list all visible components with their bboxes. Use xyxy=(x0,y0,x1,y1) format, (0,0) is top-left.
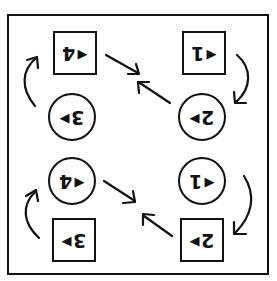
straight-arrow-bottom-right xyxy=(144,216,172,236)
pointer-right-icon: ▶ xyxy=(75,175,85,188)
curved-arrow-top-left xyxy=(25,58,36,106)
node-digit: 1 xyxy=(191,44,204,63)
pointer-left-icon: ◀ xyxy=(59,111,69,124)
pointer-left-icon: ◀ xyxy=(61,234,71,247)
pointer-right-icon: ▶ xyxy=(207,47,217,60)
node-circle-upper-left: ◀ 3 xyxy=(48,93,96,141)
node-digit: 2 xyxy=(201,231,214,250)
node-circle-lower-left: 4 ▶ xyxy=(48,157,96,205)
pointer-left-icon: ◀ xyxy=(189,234,199,247)
node-square-top-left: 4 ▶ xyxy=(53,31,97,75)
node-square-top-right: 1 ▶ xyxy=(182,31,226,75)
node-square-bottom-left: ◀ 3 xyxy=(52,218,96,262)
straight-arrow-top-left xyxy=(106,55,138,73)
node-circle-upper-right: ◀ 2 xyxy=(178,93,226,141)
arrows-layer xyxy=(0,0,277,281)
pointer-left-icon: ◀ xyxy=(189,111,199,124)
curved-arrow-bottom-right xyxy=(235,176,251,233)
node-digit: 3 xyxy=(73,231,86,250)
straight-arrow-upper-right xyxy=(140,83,170,103)
curved-arrow-top-right xyxy=(236,55,248,102)
node-square-bottom-right: ◀ 2 xyxy=(180,218,224,262)
node-digit: 4 xyxy=(59,172,72,191)
node-digit: 2 xyxy=(201,108,214,127)
pointer-right-icon: ▶ xyxy=(78,47,88,60)
node-digit: 3 xyxy=(71,108,84,127)
pointer-right-icon: ▶ xyxy=(205,175,215,188)
node-digit: 4 xyxy=(62,44,75,63)
node-digit: 1 xyxy=(189,172,202,191)
node-circle-lower-right: 1 ▶ xyxy=(178,157,226,205)
straight-arrow-lower-left xyxy=(104,181,135,201)
